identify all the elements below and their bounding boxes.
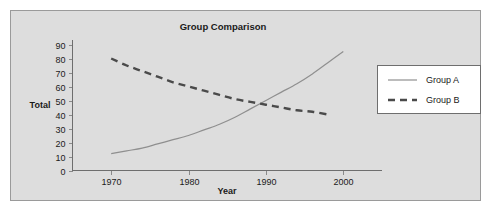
chart-plot: Group Comparison 0102030405060708090 197… <box>0 0 491 214</box>
x-axis-tick-label: 1980 <box>179 177 199 187</box>
y-axis-tick-label: 0 <box>60 167 65 177</box>
y-axis-tick-label: 40 <box>55 111 65 121</box>
chart-title: Group Comparison <box>180 21 267 32</box>
x-axis-tick-label: 1990 <box>256 177 276 187</box>
y-axis-tick-label: 30 <box>55 125 65 135</box>
series-line-group-a <box>111 52 343 154</box>
y-axis-tick-label: 80 <box>55 55 65 65</box>
y-axis-tick-label: 90 <box>55 41 65 51</box>
y-axis-tick-label: 20 <box>55 139 65 149</box>
x-axis-tick-label: 2000 <box>333 177 353 187</box>
x-axis-title: Year <box>217 186 237 196</box>
chart-figure: Group Comparison 0102030405060708090 197… <box>0 0 491 214</box>
legend-label-group-b: Group B <box>426 95 460 105</box>
y-axis-tick-label: 60 <box>55 83 65 93</box>
y-axis-tick-label: 70 <box>55 69 65 79</box>
x-axis-tick-label: 1970 <box>101 177 121 187</box>
legend-label-group-a: Group A <box>426 75 459 85</box>
legend: Group A Group B <box>378 66 481 114</box>
x-axis-tick-group: 1970198019902000 <box>101 171 353 187</box>
series-line-group-b <box>111 59 328 115</box>
y-axis-tick-label: 10 <box>55 153 65 163</box>
y-axis-tick-label: 50 <box>55 97 65 107</box>
y-axis-tick-group: 0102030405060708090 <box>55 41 72 177</box>
legend-box <box>378 66 481 114</box>
y-axis-title: Total <box>30 100 51 110</box>
